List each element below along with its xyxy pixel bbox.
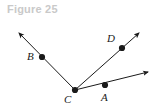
figure-container: Figure 25 B C A D bbox=[0, 0, 164, 110]
point-label-d: D bbox=[107, 33, 115, 44]
point-a-dot bbox=[102, 82, 108, 88]
point-label-b: B bbox=[27, 51, 34, 62]
geometry-diagram bbox=[0, 0, 164, 110]
point-d-dot bbox=[119, 45, 125, 51]
point-b-dot bbox=[39, 54, 45, 60]
point-label-c: C bbox=[64, 94, 71, 105]
point-c-dot bbox=[72, 87, 78, 93]
point-label-a: A bbox=[101, 92, 108, 103]
ray-ca bbox=[75, 72, 148, 90]
